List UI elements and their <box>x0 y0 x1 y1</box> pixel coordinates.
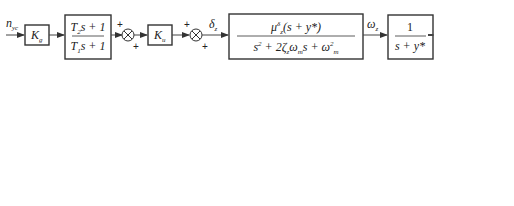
summer-2 <box>190 29 202 41</box>
block-lead-num: T2s + 1 <box>71 20 106 36</box>
svg-text:+: + <box>184 19 190 30</box>
svg-text:+: + <box>117 19 123 30</box>
block-lead-den: T1s + 1 <box>71 39 106 55</box>
signal-omega: ωz <box>367 17 378 33</box>
svg-text:+: + <box>202 41 208 52</box>
block-plant-den: s2 + 2ζzωms + ω2m <box>253 40 338 56</box>
svg-text:+: + <box>133 41 139 52</box>
summer-1 <box>122 29 134 41</box>
block-integrator-num: 1 <box>407 20 413 34</box>
block-integrator-den: s + y* <box>395 39 425 53</box>
signal-delta: δz <box>209 17 218 33</box>
block-diagram: nyc Kg T2s + 1 T1s + 1 + + Ku + + δz μδz… <box>0 0 514 206</box>
input-label: nyc <box>6 16 19 32</box>
